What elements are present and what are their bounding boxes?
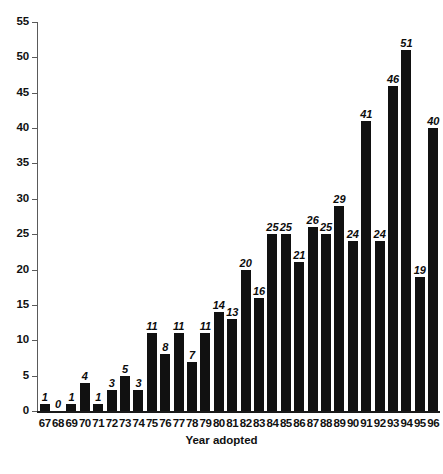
bar-value-label: 13: [226, 306, 238, 318]
x-axis-tick-label: 81: [226, 417, 239, 429]
y-axis-tick-label: 30: [17, 192, 29, 204]
x-axis-tick-label: 83: [252, 417, 265, 429]
bar-slot: 3: [132, 22, 145, 411]
bar: [361, 121, 371, 411]
x-axis-tick-label: 95: [413, 417, 426, 429]
bar-slot: 20: [239, 22, 252, 411]
bar-value-label: 7: [189, 349, 195, 361]
bar-value-label: 11: [146, 320, 157, 332]
bar-chart-figure: 0510152025303540455055 10141353118117111…: [0, 0, 443, 474]
bar: [227, 319, 237, 411]
bar-value-label: 25: [320, 221, 332, 233]
bar-slot: 29: [333, 22, 346, 411]
x-axis-tick-label: 89: [333, 417, 346, 429]
bar-slot: 13: [226, 22, 239, 411]
bar: [93, 404, 103, 411]
bar: [294, 262, 304, 411]
bar-slot: 3: [105, 22, 118, 411]
y-axis-tick-mark: [32, 376, 37, 377]
x-axis-tick-label: 72: [105, 417, 118, 429]
x-axis-title: Year adopted: [0, 434, 443, 446]
x-axis-tick-label: 80: [212, 417, 225, 429]
x-axis-tick-label: 90: [346, 417, 359, 429]
bar-slot: 40: [427, 22, 440, 411]
bar-slot: 25: [266, 22, 279, 411]
x-axis-tick-label: 69: [65, 417, 78, 429]
bar-value-label: 26: [307, 214, 319, 226]
bar-slot: 1: [65, 22, 78, 411]
x-axis-tick-label: 82: [239, 417, 252, 429]
y-axis-tick-mark: [32, 270, 37, 271]
x-axis-tick-label: 85: [279, 417, 292, 429]
bar-slot: 25: [319, 22, 332, 411]
x-axis-tick-label: 94: [400, 417, 413, 429]
bar: [428, 128, 438, 411]
bar-value-label: 41: [360, 108, 372, 120]
bar: [348, 241, 358, 411]
y-axis-tick-label: 5: [23, 369, 29, 381]
bar-value-label: 1: [95, 391, 101, 403]
bar: [200, 333, 210, 411]
bar-value-label: 21: [293, 249, 305, 261]
bar-value-label: 11: [173, 320, 184, 332]
bar-slot: 7: [185, 22, 198, 411]
y-axis-tick-mark: [32, 57, 37, 58]
bar-value-label: 25: [280, 221, 292, 233]
x-axis-tick-label: 88: [319, 417, 332, 429]
x-axis-tick-label: 91: [360, 417, 373, 429]
bar: [334, 206, 344, 411]
bar-value-label: 11: [200, 320, 211, 332]
x-axis-tick-label: 96: [427, 417, 440, 429]
y-axis-tick-mark: [32, 93, 37, 94]
x-axis-tick-label: 67: [38, 417, 51, 429]
x-axis-tick-label: 77: [172, 417, 185, 429]
y-axis-tick-label: 45: [17, 86, 29, 98]
x-axis-tick-label: 74: [132, 417, 145, 429]
x-axis-tick-label: 73: [118, 417, 131, 429]
bar-slot: 26: [306, 22, 319, 411]
x-axis-tick-label: 70: [78, 417, 91, 429]
bar-value-label: 29: [333, 193, 345, 205]
bar: [120, 376, 130, 411]
bar-value-label: 4: [82, 370, 88, 382]
y-axis-tick-mark: [32, 163, 37, 164]
y-axis-tick-mark: [32, 128, 37, 129]
bar-value-label: 25: [266, 221, 278, 233]
y-axis-tick-mark: [32, 199, 37, 200]
x-axis-tick-label: 71: [92, 417, 105, 429]
y-axis-tick-label: 10: [17, 333, 29, 345]
bar: [133, 390, 143, 411]
x-axis-tick-label: 79: [199, 417, 212, 429]
bar-value-label: 20: [240, 257, 252, 269]
x-axis-tick-label: 93: [386, 417, 399, 429]
y-axis-tick-mark: [32, 411, 37, 412]
bar-slot: 4: [78, 22, 91, 411]
bar-value-label: 19: [414, 264, 426, 276]
y-axis-tick-mark: [32, 340, 37, 341]
y-axis-tick-label: 25: [17, 227, 29, 239]
bar: [388, 86, 398, 411]
bar-slot: 41: [360, 22, 373, 411]
bar: [80, 383, 90, 411]
bar: [401, 50, 411, 411]
bar: [147, 333, 157, 411]
bar-value-label: 3: [135, 377, 141, 389]
bar-slot: 51: [400, 22, 413, 411]
y-axis-tick-label: 35: [17, 156, 29, 168]
bar-slot: 1: [38, 22, 51, 411]
bar-slot: 19: [413, 22, 426, 411]
bar-value-label: 0: [55, 398, 61, 410]
bar-slot: 11: [145, 22, 158, 411]
x-axis-tick-label: 68: [51, 417, 64, 429]
bar: [321, 234, 331, 411]
plot-area: 1014135311811711141320162525212625292441…: [38, 22, 440, 411]
x-axis-tick-label: 86: [293, 417, 306, 429]
x-axis-tick-label: 78: [185, 417, 198, 429]
x-axis-tick-label: 76: [159, 417, 172, 429]
y-axis-tick-label: 55: [17, 15, 29, 27]
x-axis-tick-label: 87: [306, 417, 319, 429]
bar-value-label: 5: [122, 363, 128, 375]
bar-value-label: 24: [347, 228, 359, 240]
y-axis-tick-label: 15: [17, 298, 29, 310]
bar-value-label: 1: [42, 391, 48, 403]
